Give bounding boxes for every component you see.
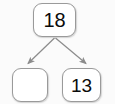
edge-parent-to-child-right [56, 38, 87, 64]
parent-node-value: 18 [43, 10, 65, 30]
edge-parent-to-child-left [28, 38, 55, 64]
child-node-right-value: 13 [71, 76, 92, 95]
diagram-canvas: 18 13 [0, 0, 115, 104]
child-node-left[interactable] [12, 68, 48, 102]
parent-node[interactable]: 18 [33, 3, 76, 37]
child-node-right[interactable]: 13 [62, 68, 101, 102]
